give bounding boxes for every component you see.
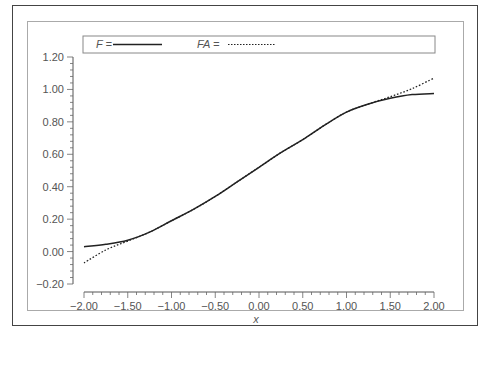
x-tick-label: 0.50 <box>292 300 313 312</box>
y-tick-label: 0.40 <box>43 181 64 193</box>
y-tick-label: 1.20 <box>43 51 64 63</box>
legend-label-f: F = <box>96 38 113 50</box>
series-fa-line <box>84 78 434 263</box>
y-axis: −0.200.000.200.400.600.801.001.20 <box>36 51 73 290</box>
x-tick-label: 1.00 <box>336 300 357 312</box>
y-tick-label: 0.20 <box>43 213 64 225</box>
x-axis: −2.00−1.50−1.00−0.500.000.501.001.502.00 <box>70 292 445 312</box>
x-tick-label: 0.00 <box>248 300 269 312</box>
y-tick-label: 0.60 <box>43 148 64 160</box>
x-tick-label: −1.00 <box>158 300 186 312</box>
x-tick-label: 2.00 <box>423 300 444 312</box>
series-f-line <box>84 93 434 246</box>
x-tick-label: −0.50 <box>201 300 229 312</box>
y-tick-label: 0.80 <box>43 116 64 128</box>
x-tick-label: −1.50 <box>114 300 142 312</box>
y-tick-label: 1.00 <box>43 83 64 95</box>
x-axis-label: x <box>252 313 259 325</box>
legend-label-fa: FA = <box>197 38 220 50</box>
x-tick-label: −2.00 <box>70 300 98 312</box>
x-tick-label: 1.50 <box>380 300 401 312</box>
y-tick-label: −0.20 <box>36 278 64 290</box>
line-chart: F = FA = −0.200.000.200.400.600.801.001.… <box>0 0 487 366</box>
y-tick-label: 0.00 <box>43 246 64 258</box>
